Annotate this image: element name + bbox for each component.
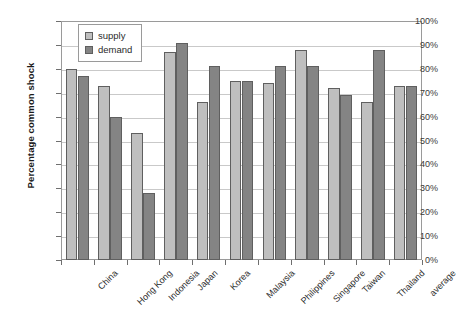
bar-demand xyxy=(406,86,418,260)
bar-demand xyxy=(176,43,188,260)
y-axis-title: Percentage common shock xyxy=(25,26,36,226)
x-tick-mark xyxy=(61,260,62,265)
x-label-korea: Korea xyxy=(228,268,252,292)
bar-supply xyxy=(66,69,78,260)
bar-supply xyxy=(98,86,110,260)
x-label-philippines: Philippines xyxy=(299,268,337,306)
x-label-japan: Japan xyxy=(195,268,219,292)
bar-group xyxy=(324,21,357,260)
bar-group xyxy=(291,21,324,260)
bar-supply xyxy=(394,86,406,260)
x-label-hong-kong: Hong Kong xyxy=(135,268,174,307)
bar-group xyxy=(192,21,225,260)
x-tick-mark xyxy=(324,260,325,265)
bar-group xyxy=(258,21,291,260)
bar-supply xyxy=(295,50,307,260)
bar-demand xyxy=(242,81,254,260)
x-tick-mark xyxy=(258,260,259,265)
legend-label: demand xyxy=(98,45,132,55)
x-label-malaysia: Malaysia xyxy=(264,268,296,300)
x-tick-mark xyxy=(422,260,423,265)
bar-supply xyxy=(197,102,209,260)
bar-demand xyxy=(110,117,122,260)
bar-demand xyxy=(143,193,155,260)
x-tick-mark xyxy=(192,260,193,265)
x-tick-mark xyxy=(225,260,226,265)
bar-demand xyxy=(78,76,90,260)
bar-demand xyxy=(307,66,319,260)
bar-supply xyxy=(131,133,143,260)
x-tick-mark xyxy=(356,260,357,265)
bar-demand xyxy=(275,66,287,260)
legend-label: supply xyxy=(98,31,125,41)
x-label-china: China xyxy=(96,268,120,292)
bar-supply xyxy=(230,81,242,260)
bar-group xyxy=(356,21,389,260)
bar-group xyxy=(225,21,258,260)
bar-demand xyxy=(340,95,352,260)
bar-demand xyxy=(373,50,385,260)
bar-supply xyxy=(164,52,176,260)
x-tick-mark xyxy=(159,260,160,265)
x-tick-mark xyxy=(94,260,95,265)
bar-supply xyxy=(263,83,275,260)
x-label-thailand: Thailand xyxy=(395,268,426,299)
x-tick-mark xyxy=(127,260,128,265)
legend-swatch-icon xyxy=(85,46,93,54)
legend-item: demand xyxy=(85,43,132,57)
legend-item: supply xyxy=(85,29,132,43)
chart-legend: supplydemand xyxy=(78,24,142,62)
legend-swatch-icon xyxy=(85,32,93,40)
x-label-average: average xyxy=(427,268,457,298)
bar-supply xyxy=(361,102,373,260)
bar-group xyxy=(159,21,192,260)
bar-supply xyxy=(328,88,340,260)
bar-demand xyxy=(209,66,221,260)
bar-group xyxy=(389,21,422,260)
x-tick-mark xyxy=(291,260,292,265)
x-tick-mark xyxy=(389,260,390,265)
